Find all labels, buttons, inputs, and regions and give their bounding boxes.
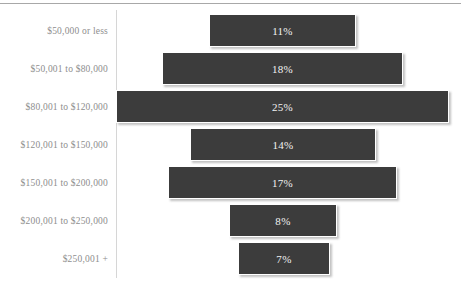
chart-row: $150,001 to $200,000 17% [0,164,461,202]
bar-value-label: 7% [239,243,329,274]
bar-value-label: 18% [163,53,402,84]
bar-segment: 8% [229,204,337,237]
category-label: $120,001 to $150,000 [0,126,108,164]
bar-segment: 11% [209,14,356,47]
chart-row: $250,001 + 7% [0,240,461,278]
funnel-bar-chart: $50,000 or less 11% $50,001 to $80,000 1… [0,0,461,294]
chart-row: $50,000 or less 11% [0,12,461,50]
bar-segment: 7% [238,242,330,275]
bar-segment: 25% [116,90,449,123]
bar-value-label: 14% [191,129,375,160]
bar-segment: 14% [190,128,376,161]
bar-segment: 17% [168,166,397,199]
bar-value-label: 11% [210,15,355,46]
category-label: $50,001 to $80,000 [0,50,108,88]
plot-area: $50,000 or less 11% $50,001 to $80,000 1… [0,0,461,294]
category-label: $80,001 to $120,000 [0,88,108,126]
chart-row: $50,001 to $80,000 18% [0,50,461,88]
chart-row: $200,001 to $250,000 8% [0,202,461,240]
bar-value-label: 25% [117,91,448,122]
category-label: $200,001 to $250,000 [0,202,108,240]
category-label: $50,000 or less [0,12,108,50]
chart-row: $80,001 to $120,000 25% [0,88,461,126]
category-label: $250,001 + [0,240,108,278]
bar-value-label: 17% [169,167,396,198]
chart-row: $120,001 to $150,000 14% [0,126,461,164]
bar-value-label: 8% [230,205,336,236]
bar-segment: 18% [162,52,403,85]
category-label: $150,001 to $200,000 [0,164,108,202]
